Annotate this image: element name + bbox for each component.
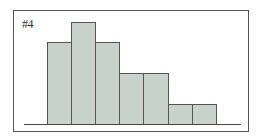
histogram-bar bbox=[143, 73, 169, 124]
histogram-bar bbox=[95, 42, 120, 124]
histogram-bar bbox=[168, 104, 193, 124]
chart-title: #4 bbox=[22, 17, 33, 32]
histogram-bar bbox=[192, 104, 217, 124]
histogram-bar bbox=[71, 22, 96, 124]
histogram-bar bbox=[47, 42, 72, 124]
histogram-bar bbox=[119, 73, 144, 124]
x-axis-baseline bbox=[24, 124, 241, 125]
